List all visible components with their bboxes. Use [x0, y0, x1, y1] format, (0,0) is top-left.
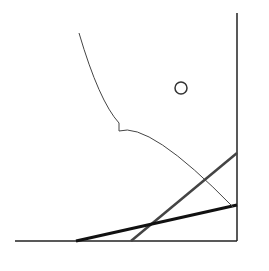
point-q0 [175, 82, 187, 94]
brace [79, 33, 233, 207]
diagram [0, 0, 269, 271]
line-a [131, 153, 237, 241]
diagram-lines [0, 0, 269, 271]
line-b [76, 205, 237, 241]
